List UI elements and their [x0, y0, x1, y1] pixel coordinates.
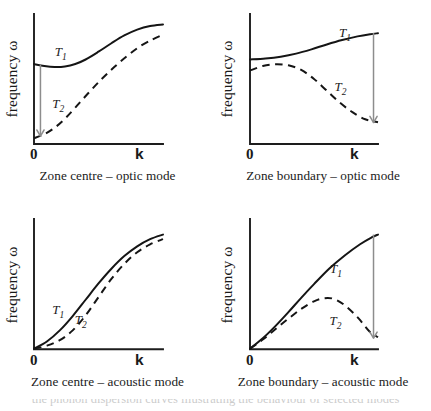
- curve-T2: [250, 298, 378, 349]
- panel-caption: Zone centre – optic mode: [0, 168, 215, 184]
- clipped-body-text-fragment: the phonon dispersion curves illustratin…: [0, 399, 431, 411]
- curve-T1: [34, 24, 163, 67]
- mode-transition-arrow: [370, 235, 377, 339]
- curve-T1: [34, 235, 163, 349]
- curve-label-T2: T2: [52, 96, 64, 114]
- curve-label-T2: T2: [75, 312, 87, 330]
- panel-caption: Zone boundary – optic mode: [215, 168, 431, 184]
- x-axis-k-tick: k: [135, 351, 144, 369]
- curve-T2: [34, 239, 163, 348]
- axis-lines: [34, 14, 163, 144]
- mode-transition-arrow: [370, 33, 377, 123]
- curve-label-text: T2: [329, 313, 341, 328]
- curve-label-text: T2: [52, 96, 64, 111]
- curve-label-T2: T2: [329, 313, 341, 331]
- panel-zone-boundary-optic: frequency ω 0 k Zone boundary – optic mo…: [215, 0, 431, 205]
- x-axis-origin-tick: 0: [246, 352, 254, 369]
- curve-label-text: T1: [339, 25, 351, 40]
- curve-label-T1: T1: [52, 302, 64, 320]
- panel-zone-centre-optic: frequency ω 0 k Zone centre – optic mode…: [0, 0, 215, 205]
- curve-T2: [250, 64, 378, 122]
- curve-label-T1: T1: [55, 44, 67, 62]
- curve-label-text: T1: [55, 44, 67, 59]
- mode-transition-arrow: [37, 65, 44, 137]
- curve-label-T1: T1: [330, 261, 342, 279]
- curve-label-T2: T2: [335, 79, 347, 97]
- curve-T1: [250, 33, 378, 59]
- panel-zone-centre-acoustic: frequency ω 0 k Zone centre – acoustic m…: [0, 205, 215, 410]
- x-axis-origin-tick: 0: [30, 146, 38, 163]
- panel-caption: Zone centre – acoustic mode: [0, 374, 215, 390]
- curve-label-text: T2: [335, 79, 347, 94]
- curve-label-T1: T1: [339, 25, 351, 43]
- phonon-dispersion-figure: frequency ω 0 k Zone centre – optic mode…: [0, 0, 431, 411]
- x-axis-k-tick: k: [135, 145, 144, 163]
- curve-T1: [250, 235, 378, 349]
- curve-label-text: T1: [52, 302, 64, 317]
- x-axis-k-tick: k: [350, 145, 359, 163]
- curve-T2: [34, 35, 163, 138]
- x-axis-origin-tick: 0: [246, 146, 254, 163]
- curve-label-text: T2: [75, 312, 87, 327]
- x-axis-origin-tick: 0: [30, 352, 38, 369]
- x-axis-k-tick: k: [350, 351, 359, 369]
- curve-label-text: T1: [330, 261, 342, 276]
- panel-caption: Zone boundary – acoustic mode: [215, 374, 431, 390]
- panel-zone-boundary-acoustic: frequency ω 0 k Zone boundary – acoustic…: [215, 205, 431, 410]
